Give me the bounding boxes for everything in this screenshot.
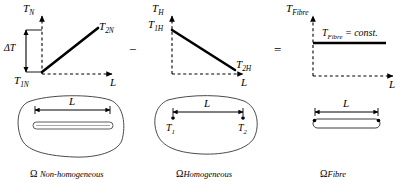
constant-temperature-annotation: TFibre = const. (322, 27, 378, 40)
point-label-t2: T2 (238, 122, 247, 135)
end-label-non-homogeneous: T2N (99, 20, 114, 35)
domain-shape-fibre (313, 108, 381, 128)
panel-fibre-plot (313, 16, 393, 76)
point-label-t1: T1 (166, 122, 175, 135)
figure-canvas: TN ΔT T1N T2N L − TH T1H T2H L = TFibre … (0, 0, 402, 188)
x-axis-label-non-homogeneous: L (110, 76, 116, 88)
caption-fibre: ΩFibre (320, 168, 346, 179)
length-label-fibre: L (343, 97, 349, 109)
start-label-non-homogeneous: T1N (14, 74, 29, 89)
delta-t-label: ΔT (4, 42, 15, 53)
panel-homogeneous-plot (172, 16, 243, 74)
temperature-profile-line-non-homogeneous (42, 28, 98, 72)
caption-non-homogeneous: Ω Non-homogeneous (30, 168, 104, 179)
y-axis-label-homogeneous: TH (152, 2, 164, 17)
temperature-profile-line-homogeneous (172, 30, 235, 70)
equals-operator: = (274, 42, 281, 58)
x-axis-label-fibre: L (389, 78, 395, 90)
length-label-homogeneous: L (204, 97, 210, 109)
y-axis-label-non-homogeneous: TN (23, 2, 34, 17)
fibre-endpoint-dot-left (313, 119, 317, 123)
fibre-body-shape (313, 119, 380, 128)
y-axis-label-fibre: TFibre (286, 2, 308, 17)
caption-homogeneous: ΩHomogeneous (176, 168, 232, 179)
x-axis-label-homogeneous: L (241, 76, 247, 88)
endpoint-dot-t2 (241, 116, 245, 120)
length-label-non-homogeneous: L (69, 95, 75, 107)
end-label-homogeneous: T2H (236, 58, 251, 73)
minus-operator: − (129, 42, 136, 58)
start-label-homogeneous: T1H (148, 18, 163, 33)
endpoint-dot-t1 (171, 116, 175, 120)
fibre-endpoint-dot-right (377, 119, 381, 123)
